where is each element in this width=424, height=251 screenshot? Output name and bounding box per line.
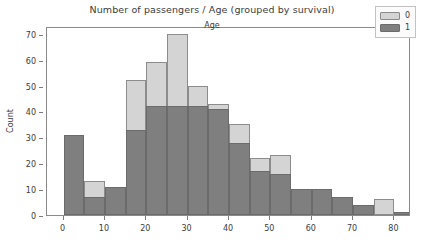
x-axis-label: Age — [0, 21, 424, 30]
bar-series-1-bin-15 — [126, 130, 147, 215]
bar-series-1-bin-45 — [250, 171, 271, 215]
bar-series-1-bin-65 — [332, 197, 353, 215]
y-tick-label-50: 50 — [26, 82, 36, 91]
y-tick-mark-60 — [39, 61, 43, 62]
x-tick-label-40: 40 — [223, 224, 233, 233]
y-tick-mark-50 — [39, 87, 43, 88]
histogram-bars — [47, 28, 409, 215]
y-tick-label-60: 60 — [26, 56, 36, 65]
x-tick-label-20: 20 — [140, 224, 150, 233]
bar-series-1-bin-10 — [105, 187, 126, 215]
bar-series-1-bin-60 — [312, 189, 333, 215]
x-tick-label-60: 60 — [306, 224, 316, 233]
x-tick-mark-40 — [228, 216, 229, 220]
bar-series-1-bin-5 — [84, 197, 105, 215]
x-tick-label-50: 50 — [264, 224, 274, 233]
legend-swatch-1 — [380, 24, 400, 32]
y-axis-label: Count — [6, 91, 15, 151]
legend-item-0[interactable]: 0 — [380, 10, 410, 22]
bar-series-1-bin-35 — [208, 109, 229, 215]
x-tick-mark-20 — [145, 216, 146, 220]
bar-series-1-bin-20 — [146, 106, 167, 215]
x-tick-label-70: 70 — [347, 224, 357, 233]
y-tick-label-40: 40 — [26, 108, 36, 117]
legend-label-0: 0 — [405, 12, 410, 20]
chart-legend: 01 — [375, 6, 416, 38]
x-tick-mark-70 — [352, 216, 353, 220]
x-axis: 01020304050607080 — [0, 216, 424, 251]
bar-series-1-bin-0 — [64, 135, 85, 215]
y-tick-mark-30 — [39, 138, 43, 139]
bar-series-1-bin-40 — [229, 143, 250, 215]
y-tick-label-70: 70 — [26, 30, 36, 39]
y-tick-label-30: 30 — [26, 134, 36, 143]
bar-series-1-bin-30 — [188, 106, 209, 215]
x-tick-label-30: 30 — [182, 224, 192, 233]
bar-series-1-bin-50 — [270, 174, 291, 215]
y-tick-mark-20 — [39, 164, 43, 165]
x-tick-mark-30 — [187, 216, 188, 220]
x-tick-mark-10 — [104, 216, 105, 220]
chart-title: Number of passengers / Age (grouped by s… — [0, 4, 424, 15]
bar-series-1-bin-80 — [394, 212, 410, 215]
x-tick-label-10: 10 — [99, 224, 109, 233]
bar-series-1-bin-55 — [291, 189, 312, 215]
legend-swatch-0 — [380, 12, 400, 20]
x-tick-mark-60 — [311, 216, 312, 220]
y-tick-mark-40 — [39, 112, 43, 113]
bar-series-0-bin-75 — [374, 199, 395, 215]
bar-series-1-bin-25 — [167, 106, 188, 215]
x-tick-mark-0 — [63, 216, 64, 220]
legend-label-1: 1 — [405, 24, 410, 32]
x-tick-mark-80 — [393, 216, 394, 220]
y-tick-mark-10 — [39, 190, 43, 191]
y-tick-mark-70 — [39, 35, 43, 36]
x-tick-mark-50 — [269, 216, 270, 220]
y-tick-label-10: 10 — [26, 186, 36, 195]
plot-area — [46, 27, 410, 216]
bar-series-1-bin-70 — [353, 205, 374, 215]
x-tick-label-0: 0 — [60, 224, 65, 233]
chart-figure: Number of passengers / Age (grouped by s… — [0, 0, 424, 251]
y-tick-label-20: 20 — [26, 160, 36, 169]
legend-item-1[interactable]: 1 — [380, 22, 410, 34]
x-tick-label-80: 80 — [388, 224, 398, 233]
